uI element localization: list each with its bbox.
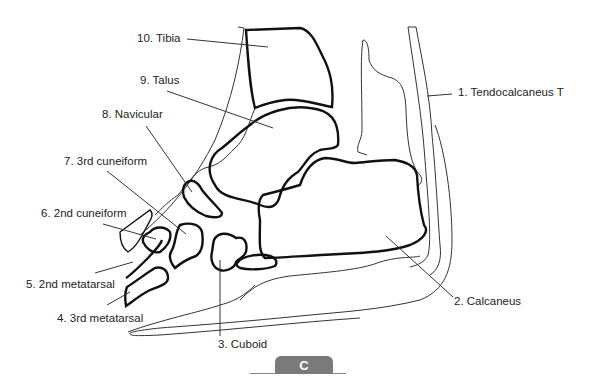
plantar-soft-tissue-outline (240, 256, 420, 300)
calcaneus-bone (259, 158, 426, 258)
leader-line-5 (95, 262, 133, 273)
label-second-metatarsal: 5. 2nd metatarsal (26, 279, 115, 291)
label-talus: 9. Talus (140, 75, 179, 87)
leader-line-9 (167, 91, 273, 128)
label-second-cuneiform: 6. 2nd cuneiform (41, 208, 127, 220)
leader-line-2 (386, 236, 453, 297)
label-cuboid: 3. Cuboid (218, 339, 267, 351)
leader-line-10 (187, 39, 268, 47)
label-third-metatarsal: 4. 3rd metatarsal (57, 313, 143, 325)
label-tibia: 10. Tibia (137, 33, 180, 45)
leader-line-1 (427, 94, 452, 96)
label-navicular: 8. Navicular (102, 109, 163, 121)
label-tendocalcaneus: 1. Tendocalcaneus T (458, 87, 564, 99)
label-calcaneus: 2. Calcaneus (454, 296, 521, 308)
leader-line-6 (103, 224, 156, 239)
cuboid-bone (211, 234, 246, 271)
posterior-talus-process (358, 40, 367, 155)
panel-label-tab: C (275, 356, 333, 374)
tibia-bone (246, 28, 333, 108)
anterior-soft-tissue-outline (140, 27, 244, 235)
leader-line-7 (107, 171, 186, 234)
foot-ankle-sagittal-diagram (0, 0, 599, 391)
label-third-cuneiform: 7. 3rd cuneiform (64, 156, 147, 168)
leader-line-8 (146, 126, 192, 192)
third-cuneiform-bone (170, 224, 203, 268)
